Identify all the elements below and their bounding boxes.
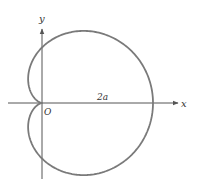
cardioid-diagram: y x O 2a bbox=[0, 0, 202, 181]
origin-label: O bbox=[44, 107, 52, 117]
y-axis-label: y bbox=[38, 13, 45, 24]
x-axis-label: x bbox=[181, 98, 187, 109]
distance-label: 2a bbox=[96, 92, 108, 102]
